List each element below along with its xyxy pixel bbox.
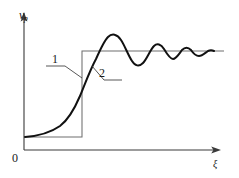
series-response bbox=[25, 35, 214, 137]
response-curve-path bbox=[25, 35, 214, 137]
annotation-label-1: 1 bbox=[52, 53, 58, 65]
x-axis-group bbox=[24, 147, 221, 154]
step-response-figure: vp ξ 0 1 2 bbox=[0, 0, 239, 178]
annotation-1-leader bbox=[46, 66, 82, 78]
y-axis-label-subscript: p bbox=[24, 14, 28, 23]
x-axis-label: ξ bbox=[213, 159, 217, 169]
annotation-1-pointer bbox=[65, 66, 82, 78]
annotation-2-leader bbox=[92, 66, 122, 80]
y-axis-group bbox=[21, 12, 28, 150]
annotation-label-2: 2 bbox=[99, 67, 105, 79]
y-axis-label: vp bbox=[19, 9, 28, 23]
origin-label: 0 bbox=[12, 152, 18, 164]
figure-canvas bbox=[0, 0, 239, 178]
